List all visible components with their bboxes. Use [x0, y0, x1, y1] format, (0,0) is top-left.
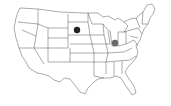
marker-indiana[interactable]	[112, 40, 118, 46]
us-map	[0, 0, 171, 106]
marker-south-dakota[interactable]	[74, 27, 80, 33]
